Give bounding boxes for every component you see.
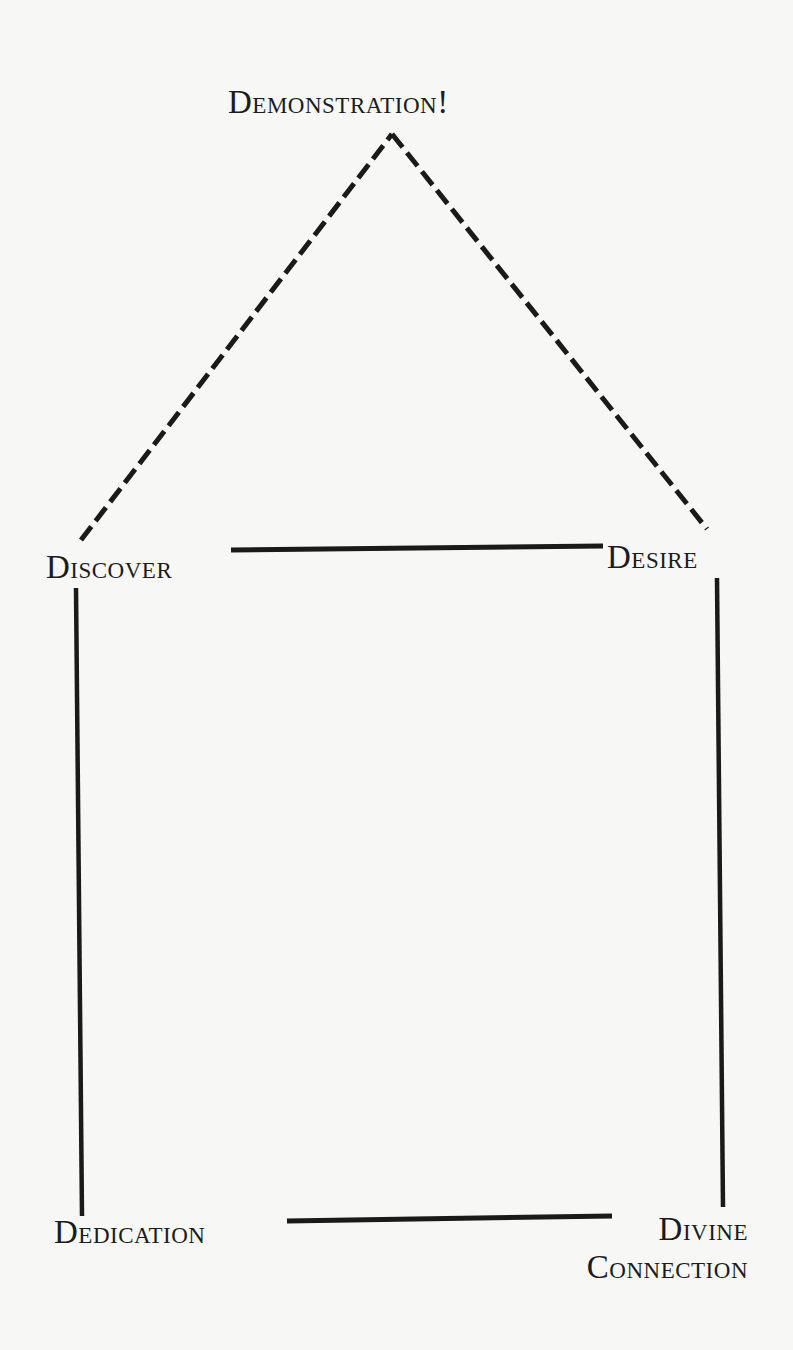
node-divine-connection-line1: Divine xyxy=(587,1210,748,1248)
node-desire-label: Desire xyxy=(607,539,698,575)
edge-discover-dedication xyxy=(76,588,82,1216)
node-demonstration-label: Demonstration! xyxy=(228,84,449,120)
node-divine-connection-line2: Connection xyxy=(587,1248,748,1286)
node-dedication: Dedication xyxy=(54,1216,205,1249)
edge-desire-divine-connection xyxy=(717,578,723,1207)
diagram-lines xyxy=(0,0,793,1350)
edge-discover-demonstration xyxy=(81,134,392,540)
node-discover: Discover xyxy=(46,551,172,584)
node-desire: Desire xyxy=(607,541,698,574)
node-dedication-label: Dedication xyxy=(54,1214,205,1250)
edge-discover-desire xyxy=(231,546,603,550)
node-demonstration: Demonstration! xyxy=(228,86,449,119)
node-divine-connection: Divine Connection xyxy=(587,1210,748,1286)
edge-desire-demonstration xyxy=(392,134,707,529)
node-discover-label: Discover xyxy=(46,549,172,585)
edge-dedication-divine-connection xyxy=(287,1216,612,1221)
